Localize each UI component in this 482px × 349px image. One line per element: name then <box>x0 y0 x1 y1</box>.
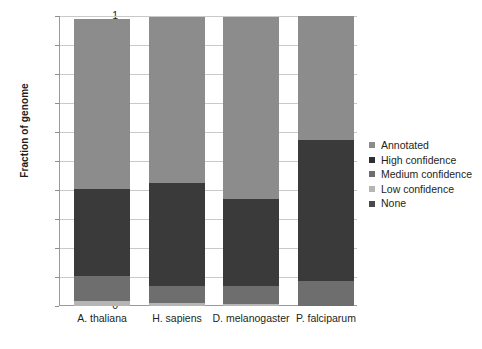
bar <box>298 16 354 306</box>
bar-segment <box>298 16 354 140</box>
plot-area <box>59 16 357 306</box>
legend-swatch-icon <box>369 157 375 163</box>
bar-segment <box>223 199 279 286</box>
bar-segment <box>223 17 279 199</box>
bar <box>149 17 205 306</box>
legend-item-label: Annotated <box>381 140 429 151</box>
legend-item[interactable]: High confidence <box>369 153 472 168</box>
bar-segment <box>223 304 279 306</box>
legend-item-label: Medium confidence <box>381 169 472 180</box>
bar-segment <box>74 301 130 306</box>
legend-item-label: High confidence <box>381 155 456 166</box>
y-axis-title: Fraction of genome <box>19 61 30 201</box>
bar-segment <box>298 281 354 306</box>
legend-item-label: None <box>381 198 406 209</box>
y-axis-tick <box>55 306 59 307</box>
legend-item[interactable]: Low confidence <box>369 182 472 197</box>
legend-swatch-icon <box>369 186 375 192</box>
legend-swatch-icon <box>369 201 375 207</box>
legend-item-label: Low confidence <box>381 184 454 195</box>
legend-swatch-icon <box>369 142 375 148</box>
bar-segment <box>74 276 130 301</box>
x-axis-tick-label: P. falciparum <box>266 312 386 324</box>
bar-segment <box>74 19 130 189</box>
bar-segment <box>223 286 279 304</box>
bar-segment <box>298 140 354 281</box>
legend-item[interactable]: Medium confidence <box>369 167 472 182</box>
legend: Annotated High confidence Medium confide… <box>369 138 472 211</box>
bar-segment <box>74 189 130 276</box>
legend-item[interactable]: None <box>369 196 472 211</box>
legend-swatch-icon <box>369 171 375 177</box>
stacked-bar-chart: Fraction of genome 00.10.20.30.40.50.60.… <box>0 0 482 349</box>
bar <box>223 17 279 306</box>
bar-segment <box>149 303 205 306</box>
bar <box>74 19 130 306</box>
y-axis-line <box>59 16 60 306</box>
bar-segment <box>149 286 205 303</box>
bar-segment <box>149 183 205 287</box>
legend-item[interactable]: Annotated <box>369 138 472 153</box>
bar-segment <box>149 17 205 183</box>
